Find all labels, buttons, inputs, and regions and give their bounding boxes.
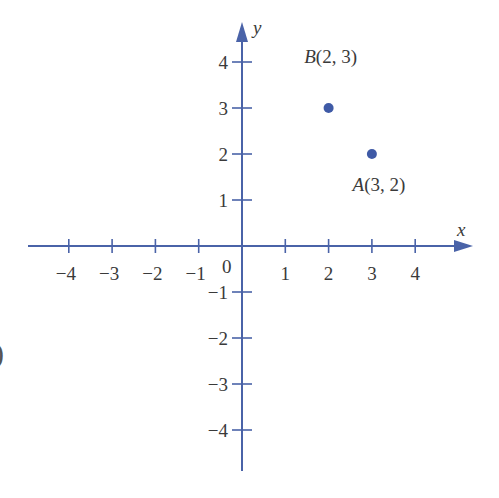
x-axis-arrow-icon bbox=[454, 240, 473, 252]
y-axis-label: y bbox=[251, 17, 262, 38]
y-axis-arrow-icon bbox=[236, 22, 248, 42]
y-tick-label: −3 bbox=[208, 374, 228, 395]
y-tick-label: −4 bbox=[208, 420, 229, 441]
x-tick-label: −1 bbox=[186, 263, 206, 284]
y-tick-label: −1 bbox=[208, 282, 228, 303]
x-tick-label: 3 bbox=[367, 263, 377, 284]
point-a bbox=[367, 149, 377, 159]
y-tick-label: 2 bbox=[219, 144, 229, 165]
point-label-a: A(3, 2) bbox=[351, 174, 406, 196]
x-tick-label: −2 bbox=[142, 263, 162, 284]
x-tick-label: 1 bbox=[281, 263, 291, 284]
y-tick-label: −2 bbox=[208, 328, 228, 349]
x-tick-label: −4 bbox=[56, 263, 77, 284]
x-tick-label: 4 bbox=[410, 263, 420, 284]
y-tick-label: 1 bbox=[219, 190, 229, 211]
point-b bbox=[324, 103, 334, 113]
points: A(3, 2)B(2, 3) bbox=[304, 46, 405, 196]
y-tick-label: 3 bbox=[219, 98, 229, 119]
origin-label: 0 bbox=[222, 256, 232, 277]
x-tick-label: 2 bbox=[324, 263, 334, 284]
axes: xy0 bbox=[28, 17, 473, 471]
point-label-b: B(2, 3) bbox=[304, 46, 357, 68]
coordinate-plane: xy0 −4−3−2−11234−4−3−2−11234 A(3, 2)B(2,… bbox=[0, 0, 499, 498]
y-tick-label: 4 bbox=[219, 52, 229, 73]
stray-parenthesis: ) bbox=[0, 336, 4, 370]
x-tick-label: −3 bbox=[99, 263, 119, 284]
x-axis-label: x bbox=[456, 219, 466, 240]
